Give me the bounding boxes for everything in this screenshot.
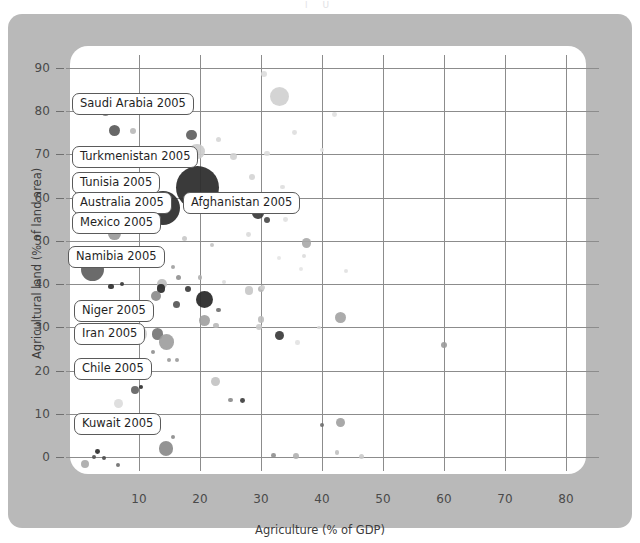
data-bubble[interactable] <box>222 280 226 284</box>
point-callout-label[interactable]: Iran 2005 <box>74 323 145 345</box>
y-gridline <box>66 457 599 458</box>
data-bubble[interactable] <box>185 286 191 292</box>
data-bubble[interactable] <box>196 291 213 308</box>
y-axis-tick <box>56 284 64 285</box>
point-callout-label[interactable]: Afghanistan 2005 <box>183 192 300 214</box>
data-bubble[interactable] <box>264 217 270 223</box>
y-axis-tick-label: 90 <box>16 62 50 74</box>
point-callout-label[interactable]: Namibia 2005 <box>68 246 165 268</box>
data-bubble[interactable] <box>173 301 180 308</box>
data-bubble[interactable] <box>335 450 339 454</box>
data-bubble[interactable] <box>332 112 337 117</box>
data-bubble[interactable] <box>359 454 364 459</box>
data-bubble[interactable] <box>275 331 284 340</box>
x-gridline <box>444 55 445 471</box>
data-bubble[interactable] <box>216 308 221 313</box>
x-gridline <box>322 55 323 471</box>
data-bubble[interactable] <box>283 217 288 222</box>
x-axis-tick-label: 70 <box>485 493 525 505</box>
data-bubble[interactable] <box>336 418 345 427</box>
data-bubble[interactable] <box>211 377 220 386</box>
data-bubble[interactable] <box>114 399 123 408</box>
y-axis-tick <box>56 154 64 155</box>
x-gridline <box>200 55 201 471</box>
data-bubble[interactable] <box>344 269 348 273</box>
y-gridline <box>66 284 599 285</box>
data-bubble[interactable] <box>302 238 311 247</box>
x-gridline <box>383 55 384 471</box>
data-bubble[interactable] <box>317 326 321 330</box>
data-bubble[interactable] <box>167 358 171 362</box>
y-axis-tick-label: 10 <box>16 408 50 420</box>
data-bubble[interactable] <box>280 185 284 189</box>
data-bubble[interactable] <box>245 286 253 294</box>
data-bubble[interactable] <box>271 453 276 458</box>
y-axis-tick <box>56 198 64 199</box>
y-axis-tick <box>56 68 64 69</box>
point-callout-label[interactable]: Kuwait 2005 <box>74 413 161 435</box>
data-bubble[interactable] <box>81 460 89 468</box>
x-axis-tick-label: 50 <box>363 493 403 505</box>
point-callout-label[interactable]: Mexico 2005 <box>72 212 161 234</box>
data-bubble[interactable] <box>95 449 100 454</box>
data-bubble[interactable] <box>139 385 143 389</box>
data-bubble[interactable] <box>171 435 175 439</box>
point-callout-label[interactable]: Saudi Arabia 2005 <box>72 93 194 115</box>
data-bubble[interactable] <box>198 275 203 280</box>
chart-figure-card: 01020304050607080901020304050607080Saudi… <box>8 14 632 528</box>
point-callout-label[interactable]: Turkmenistan 2005 <box>72 146 198 168</box>
data-bubble[interactable] <box>293 453 299 459</box>
y-axis-tick-label: 0 <box>16 451 50 463</box>
data-bubble[interactable] <box>258 316 265 323</box>
data-bubble[interactable] <box>176 275 181 280</box>
data-bubble[interactable] <box>216 137 222 143</box>
data-bubble[interactable] <box>256 324 262 330</box>
data-bubble[interactable] <box>159 334 174 349</box>
data-bubble[interactable] <box>230 153 237 160</box>
data-bubble[interactable] <box>302 254 306 258</box>
data-bubble[interactable] <box>320 423 324 427</box>
data-bubble[interactable] <box>199 315 210 326</box>
data-bubble[interactable] <box>295 340 299 344</box>
point-callout-label[interactable]: Tunisia 2005 <box>72 172 160 194</box>
point-callout-label[interactable]: Australia 2005 <box>72 192 172 214</box>
data-bubble[interactable] <box>171 265 175 269</box>
data-bubble[interactable] <box>249 174 255 180</box>
data-bubble[interactable] <box>320 148 324 152</box>
data-bubble[interactable] <box>299 267 303 271</box>
data-bubble[interactable] <box>213 323 219 329</box>
scatter-plot-area: 01020304050607080901020304050607080Saudi… <box>8 14 632 528</box>
data-bubble[interactable] <box>151 350 155 354</box>
data-bubble[interactable] <box>109 125 120 136</box>
y-axis-tick <box>56 457 64 458</box>
data-bubble[interactable] <box>120 282 124 286</box>
data-bubble[interactable] <box>175 358 179 362</box>
y-gridline <box>66 68 599 69</box>
y-axis-tick-label: 80 <box>16 105 50 117</box>
y-axis-tick <box>56 241 64 242</box>
data-bubble[interactable] <box>108 284 113 289</box>
data-bubble[interactable] <box>270 87 289 106</box>
data-bubble[interactable] <box>441 342 447 348</box>
data-bubble[interactable] <box>264 151 270 157</box>
data-bubble[interactable] <box>130 128 136 134</box>
data-bubble[interactable] <box>116 463 120 467</box>
data-bubble[interactable] <box>228 398 232 402</box>
data-bubble[interactable] <box>186 130 197 141</box>
data-bubble[interactable] <box>159 441 173 455</box>
data-bubble[interactable] <box>277 256 281 260</box>
point-callout-label[interactable]: Chile 2005 <box>74 358 152 380</box>
data-bubble[interactable] <box>151 291 161 301</box>
data-bubble[interactable] <box>210 243 214 247</box>
y-gridline <box>66 241 599 242</box>
data-bubble[interactable] <box>292 130 297 135</box>
data-bubble[interactable] <box>335 312 347 324</box>
data-bubble[interactable] <box>240 398 245 403</box>
data-bubble[interactable] <box>92 455 96 459</box>
data-bubble[interactable] <box>261 71 267 77</box>
x-gridline <box>261 55 262 471</box>
data-bubble[interactable] <box>260 285 265 290</box>
data-bubble[interactable] <box>102 456 106 460</box>
data-bubble[interactable] <box>246 232 251 237</box>
point-callout-label[interactable]: Niger 2005 <box>74 300 154 322</box>
